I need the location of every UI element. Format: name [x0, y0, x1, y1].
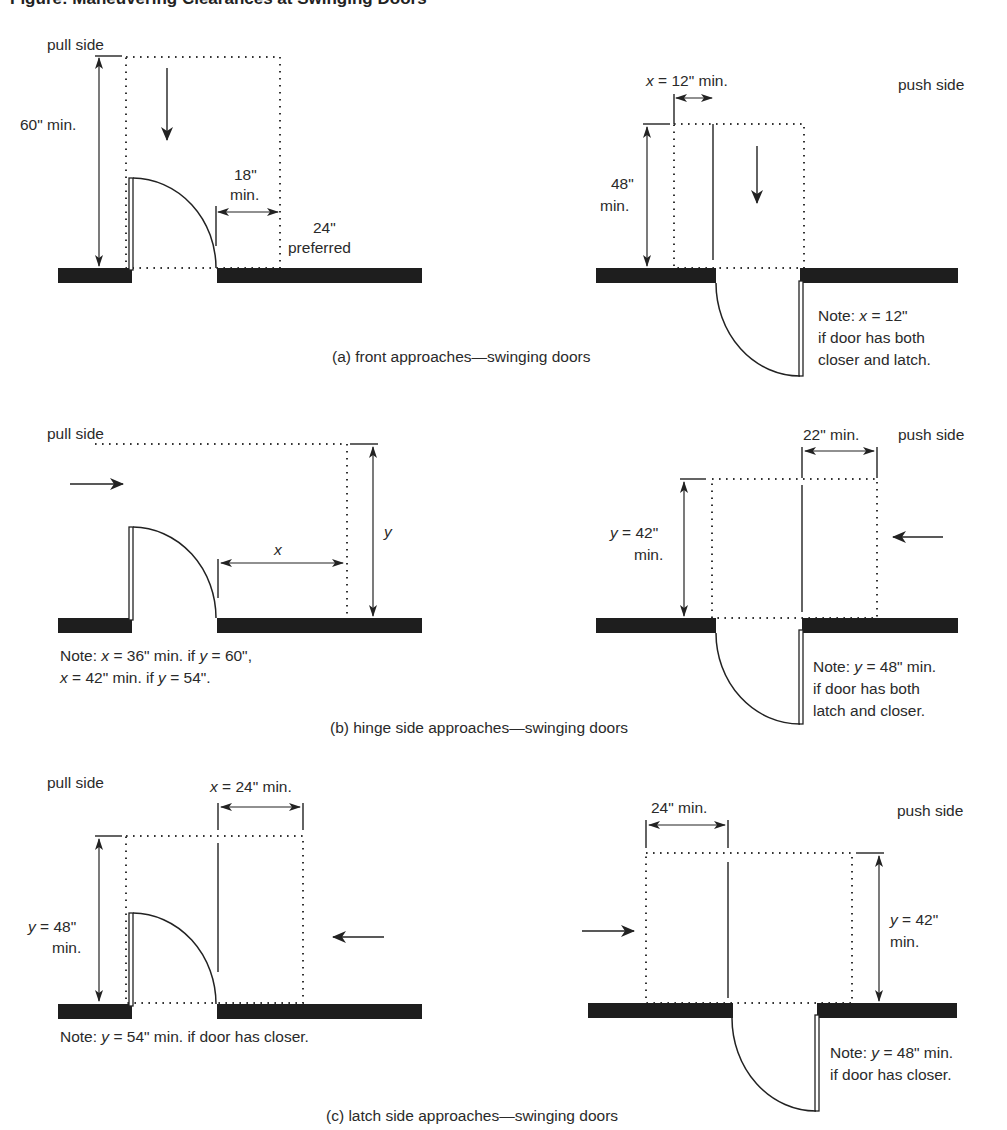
clearance-area-outline [646, 853, 852, 1003]
clearance-area-outline [674, 124, 804, 268]
push-side-label: push side [897, 802, 963, 819]
y-dimension-label: y = 42" [609, 524, 658, 541]
wall-left [588, 1003, 733, 1018]
door-swing-arc [133, 527, 216, 618]
x-dimension-label: x = 24" min. [209, 778, 292, 795]
wall-right [217, 618, 422, 633]
note-line: Note: y = 48" min. [830, 1044, 953, 1061]
panel-b-push-side: 22" min. push side y = 42" min. Note: y … [596, 426, 964, 724]
y-dimension-label: min. [634, 546, 663, 563]
door-swing-arc [716, 283, 800, 376]
panel-a-push-side: push side x = 12" min. 48" min. Note: x … [596, 72, 964, 376]
preferred-label: preferred [288, 239, 351, 256]
y-dimension-label: min. [890, 933, 919, 950]
door-swing-arc [732, 1018, 816, 1111]
wall-right [802, 618, 958, 633]
y-dimension-label: y = 48" [27, 918, 76, 935]
pull-side-label: pull side [47, 36, 104, 53]
note-line: Note: y = 48" min. [813, 658, 936, 675]
preferred-label: 24" [313, 219, 336, 236]
note-line: x = 42" min. if y = 54". [59, 669, 211, 686]
door-leaf [799, 281, 803, 376]
pull-side-label: pull side [47, 774, 104, 791]
width-label: 24" min. [651, 799, 707, 816]
door-leaf [129, 527, 133, 620]
panel-b-hinge-side-approach: pull side y x Note: x = 36" min. if y = … [47, 425, 964, 736]
note-line: latch and closer. [813, 702, 925, 719]
wall-right [800, 268, 958, 283]
door-leaf [129, 178, 133, 270]
depth-label: 48" [611, 175, 634, 192]
y-dimension-label: y = 42" [889, 911, 938, 928]
clearance-area-outline [126, 836, 303, 1003]
pull-side-label: pull side [47, 425, 104, 442]
panel-a-caption: (a) front approaches—swinging doors [332, 348, 591, 365]
wall-right [217, 268, 422, 283]
panel-b-caption: (b) hinge side approaches—swinging doors [330, 719, 628, 736]
wall-left [58, 1004, 132, 1019]
y-label: y [383, 523, 393, 540]
push-side-label: push side [898, 76, 964, 93]
wall-left [596, 268, 716, 283]
depth-label: 60" min. [20, 116, 76, 133]
push-side-label: push side [898, 426, 964, 443]
figure-heading: Figure: Maneuvering Clearances at Swingi… [10, 0, 427, 8]
panel-c-latch-side-approach: pull side x = 24" min. y = 48" min. Note… [27, 774, 963, 1124]
door-swing-arc [716, 633, 800, 724]
door-swing-arc [133, 913, 216, 1004]
wall-left [596, 618, 716, 633]
panel-c-push-side: 24" min. push side y = 42" min. Note: y … [582, 799, 963, 1111]
panel-c-caption: (c) latch side approaches—swinging doors [326, 1107, 618, 1124]
door-leaf [799, 630, 803, 724]
panel-a-front-approach: pull side 60" min. 18" min. 24" preferre… [20, 36, 964, 376]
x-label: x [273, 541, 283, 558]
y-dimension-label: min. [52, 939, 81, 956]
note-line: if door has both [818, 329, 925, 346]
wall-right [217, 1004, 422, 1019]
door-clearance-diagram: Figure: Maneuvering Clearances at Swingi… [0, 0, 1007, 1130]
note-line: if door has closer. [830, 1066, 951, 1083]
width-label: 22" min. [803, 426, 859, 443]
note-line: if door has both [813, 680, 920, 697]
door-leaf [129, 913, 133, 1006]
door-swing-arc [133, 178, 216, 268]
note-line: Note: x = 12" [818, 307, 908, 324]
wall-left [58, 618, 132, 633]
clearance-area-outline [126, 57, 280, 268]
panel-c-pull-side: pull side x = 24" min. y = 48" min. Note… [27, 774, 422, 1045]
x-dimension-label: x = 12" min. [645, 72, 728, 89]
latch-clearance-label: min. [230, 186, 259, 203]
clearance-area-outline [712, 479, 877, 618]
wall-left [58, 268, 132, 283]
door-leaf [815, 1015, 819, 1111]
note-line: closer and latch. [818, 351, 931, 368]
wall-right [817, 1003, 957, 1018]
latch-clearance-label: 18" [234, 166, 257, 183]
note-line: Note: x = 36" min. if y = 60", [60, 647, 252, 664]
depth-label: min. [600, 197, 629, 214]
note-line: Note: y = 54" min. if door has closer. [60, 1028, 309, 1045]
panel-b-pull-side: pull side y x Note: x = 36" min. if y = … [47, 425, 422, 686]
panel-a-pull-side: pull side 60" min. 18" min. 24" preferre… [20, 36, 422, 283]
